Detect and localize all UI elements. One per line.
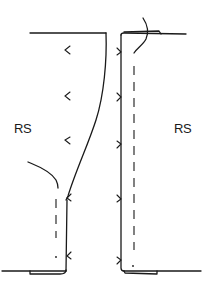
left-notch-marks [65,46,70,144]
left-seam-end-dot [55,256,57,258]
right-seam-end-dot [132,265,134,267]
right-panel-right-side-label: RS [174,121,191,136]
right-loose-thread-icon [134,18,147,53]
left-panel-outline [2,33,106,274]
right-panel-outline [121,31,201,274]
left-edge-notches [67,194,71,259]
diagram-drawing [0,0,207,287]
left-loose-thread-icon [28,162,58,188]
left-panel-right-side-label: RS [14,121,31,136]
seam-diagram: RS RS [0,0,207,287]
